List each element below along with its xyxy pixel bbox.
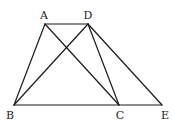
segment-DE — [88, 24, 162, 105]
point-label-b: B — [6, 109, 14, 122]
segment-AB — [14, 24, 45, 105]
point-label-c: C — [116, 109, 124, 122]
geometry-diagram: A D B C E — [0, 0, 173, 123]
segment-DC — [88, 24, 119, 105]
segment-AC — [45, 24, 119, 105]
point-label-d: D — [84, 9, 93, 22]
point-label-e: E — [161, 109, 169, 122]
point-label-a: A — [39, 9, 49, 22]
segment-DB — [14, 24, 88, 105]
